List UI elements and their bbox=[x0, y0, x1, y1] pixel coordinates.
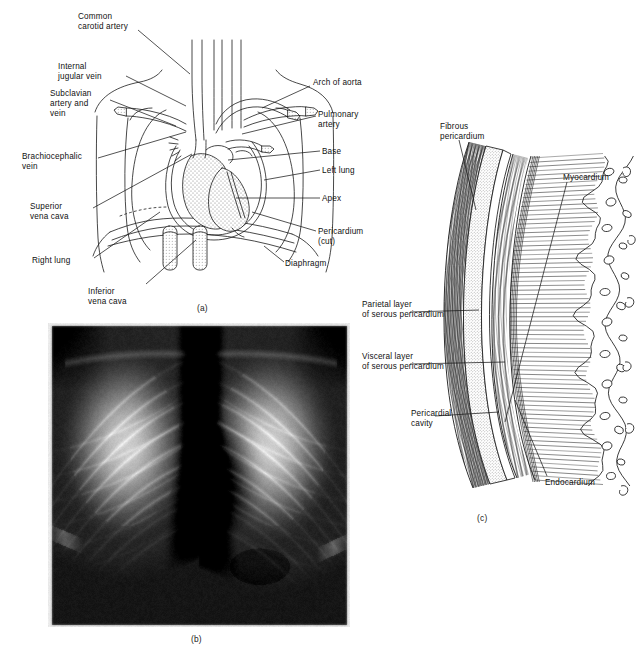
label-fibrous-pericardium-2: pericardium bbox=[440, 132, 484, 142]
label-visceral-layer-2: of serous pericardium bbox=[362, 362, 444, 372]
label-visceral-layer: Visceral layer bbox=[362, 352, 413, 362]
label-internal-jugular-vein-2: jugular vein bbox=[58, 72, 102, 82]
chest-xray-image bbox=[48, 323, 350, 627]
label-apex: Apex bbox=[322, 194, 341, 204]
label-diaphragm: Diaphragm bbox=[285, 259, 326, 269]
label-parietal-layer-2: of serous pericardium bbox=[362, 310, 444, 320]
label-left-lung: Left lung bbox=[322, 166, 355, 176]
label-right-lung: Right lung bbox=[32, 256, 70, 266]
label-base: Base bbox=[322, 147, 341, 157]
label-fibrous-pericardium: Fibrous bbox=[440, 122, 468, 132]
label-myocardium: Myocardium bbox=[563, 173, 609, 183]
label-internal-jugular-vein: Internal bbox=[58, 62, 87, 72]
label-subclavian-artery-2: artery and bbox=[50, 99, 88, 109]
label-pericardium-cut-2: (cut) bbox=[318, 237, 335, 247]
label-superior-vena-cava: Superior bbox=[30, 202, 62, 212]
label-brachiocephalic-vein: Brachiocephalic bbox=[22, 152, 82, 162]
label-pulmonary-artery-2: artery bbox=[318, 120, 340, 130]
label-parietal-layer: Parietal layer bbox=[362, 300, 412, 310]
label-brachiocephalic-vein-2: vein bbox=[22, 162, 38, 172]
label-pericardial-cavity-2: cavity bbox=[411, 419, 433, 429]
label-pulmonary-artery: Pulmonary bbox=[318, 110, 359, 120]
label-arch-of-aorta: Arch of aorta bbox=[313, 78, 362, 88]
caption-panel-b: (b) bbox=[191, 634, 202, 644]
label-superior-vena-cava-2: vena cava bbox=[30, 212, 69, 222]
panel-b-chest-radiograph bbox=[48, 323, 350, 627]
caption-panel-c: (c) bbox=[477, 513, 487, 523]
label-pericardial-cavity: Pericardial bbox=[411, 409, 451, 419]
label-inferior-vena-cava: Inferior bbox=[88, 287, 115, 297]
label-subclavian-artery: Subclavian bbox=[50, 89, 92, 99]
figure-root: Common carotid artery Internal jugular v… bbox=[0, 0, 642, 667]
label-common-carotid-artery: Common bbox=[78, 12, 112, 22]
label-endocardium: Endocardium bbox=[545, 478, 595, 488]
label-subclavian-artery-3: vein bbox=[50, 109, 66, 119]
panel-a-thorax-diagram: Common carotid artery Internal jugular v… bbox=[0, 0, 360, 320]
caption-panel-a: (a) bbox=[197, 303, 208, 313]
label-common-carotid-artery-2: carotid artery bbox=[78, 22, 128, 32]
label-inferior-vena-cava-2: vena cava bbox=[88, 297, 127, 307]
